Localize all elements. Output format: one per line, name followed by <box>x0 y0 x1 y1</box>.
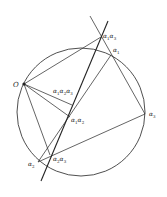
label-a1a3: α1α3 <box>103 32 117 41</box>
label-a1: α1 <box>113 46 120 55</box>
point-O <box>22 82 25 85</box>
label-a2a3: α2α3 <box>53 155 67 164</box>
simson-line <box>41 21 108 181</box>
label-O: O <box>13 81 19 89</box>
label-a1a2: α1α2 <box>71 116 85 125</box>
label-a1a2a3: α1α2α3 <box>53 87 73 96</box>
segment-O-a2a3 <box>24 84 50 155</box>
label-a2: α2 <box>28 160 35 169</box>
label-a3: α3 <box>149 110 156 119</box>
geometry-diagram: O α1α3 α1 α3 α1α2α3 α1α2 α2α3 α2 <box>0 0 167 197</box>
line-a1a3-a3 <box>90 16 145 114</box>
segment-O-a1a3 <box>24 37 101 84</box>
circumcircle <box>17 48 145 176</box>
